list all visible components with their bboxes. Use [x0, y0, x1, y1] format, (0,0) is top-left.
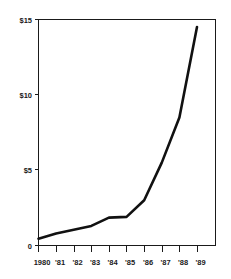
- y-axis-labels: $15 $10 $5 0: [19, 16, 32, 251]
- screenshot-root: $15 $10 $5 0 1980 '81: [0, 0, 231, 279]
- plot-frame: [39, 20, 216, 246]
- chart-canvas: $15 $10 $5 0 1980 '81: [0, 0, 231, 279]
- x-axis-label-1980: 1980: [34, 258, 51, 267]
- x-axis-labels: 1980 '81 '82 '83 '84 '85 '86 '87 '88 '89: [34, 258, 206, 267]
- x-axis-label-89: '89: [195, 258, 205, 267]
- data-series-line: [39, 27, 198, 239]
- x-axis-label-87: '87: [160, 258, 170, 267]
- x-axis-label-81: '81: [55, 258, 65, 267]
- x-axis-label-82: '82: [72, 258, 82, 267]
- y-axis-label-5: $5: [24, 166, 32, 175]
- x-axis-label-88: '88: [178, 258, 188, 267]
- x-axis-label-84: '84: [107, 258, 118, 267]
- x-axis-label-86: '86: [143, 258, 153, 267]
- y-axis-ticks: [35, 20, 39, 246]
- line-chart-figure: $15 $10 $5 0 1980 '81: [0, 0, 231, 279]
- x-axis-label-85: '85: [125, 258, 135, 267]
- x-axis-label-83: '83: [90, 258, 100, 267]
- y-axis-label-10: $10: [19, 91, 32, 100]
- y-axis-label-15: $15: [19, 16, 32, 25]
- axis-frame-path: [39, 20, 216, 246]
- y-axis-label-0: 0: [28, 242, 32, 251]
- x-axis-ticks: [39, 246, 198, 252]
